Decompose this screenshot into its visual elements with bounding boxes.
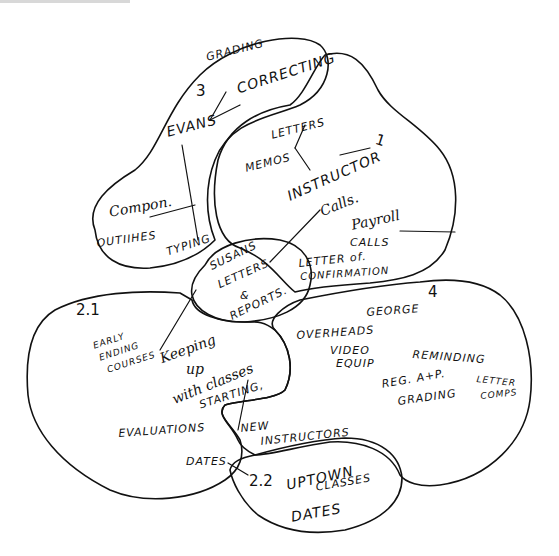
label-payroll-calls: CALLS [350, 237, 389, 249]
label-up: up [186, 362, 204, 377]
connector-evans-typing [182, 145, 198, 240]
diagram-canvas [0, 0, 559, 556]
group-2-1-number: 2.1 [76, 303, 100, 319]
label-equip: EQUIP [336, 358, 375, 370]
label-video: VIDEO [330, 345, 370, 357]
connector-payroll-arrow [400, 231, 455, 232]
connector-memos-instructor [295, 148, 310, 170]
label-new: NEW [240, 420, 270, 435]
group-2-2-number: 2.2 [249, 474, 273, 490]
group-4-number: 4 [428, 285, 438, 301]
label-dates-2-1: DATES [186, 456, 227, 468]
connector-calls-susans [270, 210, 320, 262]
group-3-number: 3 [196, 84, 206, 100]
